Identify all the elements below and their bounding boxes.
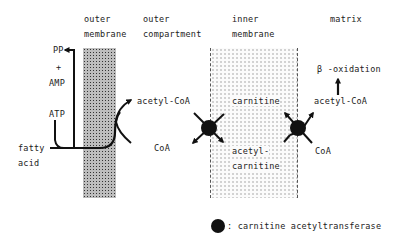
coa-matrix-label: CoA bbox=[315, 146, 331, 156]
fatty-acid-label-line1: fatty bbox=[18, 143, 45, 153]
pathway-arrows bbox=[0, 0, 393, 242]
coa-outer-label: CoA bbox=[154, 143, 170, 153]
enzyme-right-icon bbox=[290, 120, 306, 136]
carnitine-label: carnitine bbox=[232, 96, 280, 106]
amp-label: AMP bbox=[49, 78, 65, 88]
legend-label: : carnitine acetyltransferase bbox=[227, 221, 381, 231]
pp-label: PP bbox=[53, 45, 64, 55]
enzyme-left-icon bbox=[201, 120, 217, 136]
acetyl-carnitine-label-line2: carnitine bbox=[232, 161, 280, 171]
acetyl-coa-outer-label: acetyl-CoA bbox=[137, 96, 190, 106]
fatty-acid-label-line2: acid bbox=[18, 158, 39, 168]
legend-enzyme-icon bbox=[211, 219, 225, 233]
acetyl-carnitine-label-line1: acetyl- bbox=[232, 146, 269, 156]
atp-label: ATP bbox=[49, 109, 65, 119]
beta-oxidation-label: β -oxidation bbox=[317, 64, 381, 74]
plus-label: + bbox=[56, 62, 61, 72]
acetyl-coa-matrix-label: acetyl-CoA bbox=[314, 96, 367, 106]
